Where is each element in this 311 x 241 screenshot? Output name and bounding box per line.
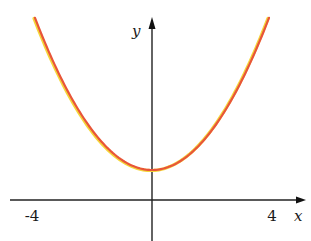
y-axis-label: y [131, 22, 141, 40]
chart: x y -44 [0, 0, 311, 241]
x-tick-label: -4 [25, 207, 40, 225]
x-axis-label: x [294, 207, 303, 225]
x-axis-arrow [296, 197, 306, 204]
y-axis-arrow [149, 17, 156, 29]
tick-labels: -44 [25, 207, 277, 225]
axes [10, 17, 306, 241]
x-tick-label: 4 [267, 207, 277, 225]
